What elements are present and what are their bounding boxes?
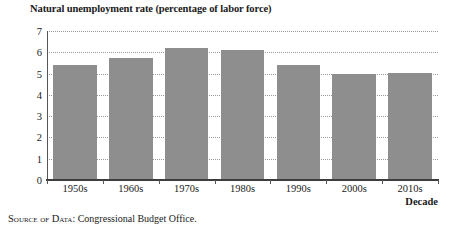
x-tick-label: 1990s [270, 183, 326, 194]
y-tick-label: 6 [37, 47, 42, 58]
bar-slot [159, 31, 215, 180]
bar-1960s [109, 58, 153, 180]
y-axis-labels: 01234567 [0, 31, 42, 180]
bar-slot [47, 31, 103, 180]
x-tick-mark [103, 180, 104, 184]
x-tick-mark [47, 180, 48, 184]
x-tick-mark [382, 180, 383, 184]
y-tick-label: 7 [37, 26, 42, 37]
x-tick-mark [159, 180, 160, 184]
source-note: Source of Data: Congressional Budget Off… [8, 213, 197, 224]
x-tick-label: 2000s [326, 183, 382, 194]
x-tick-label: 1950s [47, 183, 103, 194]
bar-slot [270, 31, 326, 180]
bar-slot [103, 31, 159, 180]
bar-slot [382, 31, 438, 180]
source-text: Congressional Budget Office. [78, 213, 197, 224]
chart-title: Natural unemployment rate (percentage of… [30, 3, 271, 14]
y-tick-label: 2 [37, 132, 42, 143]
chart-figure: Natural unemployment rate (percentage of… [0, 0, 461, 233]
bar-slot [215, 31, 271, 180]
y-tick-label: 1 [37, 153, 42, 164]
y-tick-label: 5 [37, 68, 42, 79]
x-tick-label: 1980s [215, 183, 271, 194]
bar-1990s [277, 65, 321, 180]
x-tick-mark [215, 180, 216, 184]
y-tick-label: 4 [37, 89, 42, 100]
x-axis-line [46, 179, 439, 181]
plot-area [47, 31, 438, 180]
x-tick-label: 2010s [382, 183, 438, 194]
bar-1980s [221, 50, 265, 180]
bar-2010s [388, 73, 432, 180]
y-tick-label: 3 [37, 111, 42, 122]
bar-series [47, 31, 438, 180]
source-separator: : [72, 213, 75, 224]
x-tick-label: 1970s [159, 183, 215, 194]
x-tick-label: 1960s [103, 183, 159, 194]
bar-slot [326, 31, 382, 180]
bar-1970s [165, 48, 209, 180]
bar-2000s [332, 74, 376, 180]
x-tick-mark [326, 180, 327, 184]
x-axis-title: Decade [405, 196, 438, 207]
x-tick-mark [438, 180, 439, 184]
x-tick-mark [270, 180, 271, 184]
y-tick-label: 0 [37, 175, 42, 186]
source-prefix: Source of Data [8, 213, 72, 224]
bar-1950s [53, 65, 97, 180]
x-axis-labels: 1950s1960s1970s1980s1990s2000s2010s [47, 183, 438, 194]
